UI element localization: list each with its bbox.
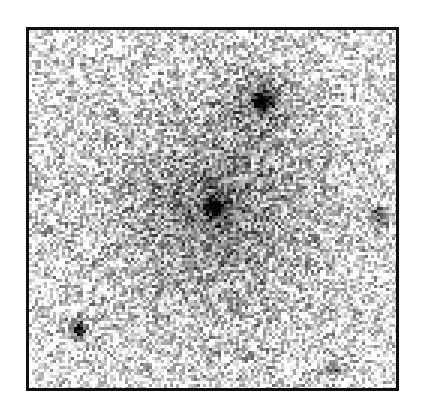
central-galaxy — [214, 206, 215, 207]
bottom-left-star — [78, 328, 79, 329]
image-frame — [26, 27, 399, 391]
galaxy-image — [29, 30, 396, 388]
bottom-right-faint — [332, 368, 333, 369]
top-companion — [260, 100, 261, 101]
right-source — [378, 213, 379, 214]
